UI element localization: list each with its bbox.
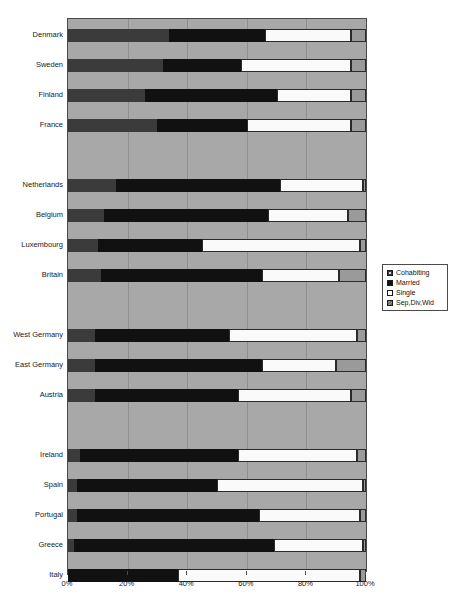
bar-segment-cohabiting (68, 59, 163, 72)
bar-segment-single (265, 29, 351, 42)
bar-segment-single (202, 239, 360, 252)
category-label-belgium: Belgium (0, 210, 63, 219)
bar-row (68, 29, 366, 42)
bar-segment-sepdivwid (363, 479, 366, 492)
bar-segment-married (77, 509, 259, 522)
x-tick-mark (186, 571, 187, 575)
bar-segment-single (238, 389, 351, 402)
x-tick-label: 20% (119, 579, 134, 588)
bar-segment-sepdivwid (351, 59, 366, 72)
legend-item-single[interactable]: Single (387, 289, 443, 296)
category-label-spain: Spain (0, 480, 63, 489)
bar-row (68, 329, 366, 342)
legend-label: Married (396, 279, 420, 286)
bar-row (68, 59, 366, 72)
bar-segment-single (262, 359, 337, 372)
bar-row (68, 239, 366, 252)
bar-segment-married (169, 29, 264, 42)
legend-swatch-icon (387, 290, 393, 296)
stacked-bar-chart: DenmarkSwedenFinlandFranceNetherlandsBel… (0, 0, 464, 611)
bar-segment-sepdivwid (360, 239, 366, 252)
bar-segment-married (101, 269, 262, 282)
category-label-sweden: Sweden (0, 60, 63, 69)
legend-swatch-icon (387, 270, 393, 276)
bar-segment-sepdivwid (351, 389, 366, 402)
bar-row (68, 89, 366, 102)
bar-segment-married (116, 179, 280, 192)
x-tick-mark (365, 571, 366, 575)
category-label-france: France (0, 120, 63, 129)
bar-segment-single (277, 89, 352, 102)
bar-segment-sepdivwid (336, 359, 366, 372)
bar-row (68, 269, 366, 282)
bar-segment-sepdivwid (360, 509, 366, 522)
bar-segment-sepdivwid (348, 209, 366, 222)
bar-row (68, 119, 366, 132)
x-tick-mark (67, 571, 68, 575)
bar-segment-sepdivwid (351, 119, 366, 132)
legend-label: Single (396, 289, 415, 296)
bar-row (68, 359, 366, 372)
category-label-netherlands: Netherlands (0, 180, 63, 189)
legend-item-cohabiting[interactable]: Cohabiting (387, 269, 443, 276)
legend-label: Sep,Div,Wid (396, 299, 434, 306)
bar-segment-single (262, 269, 339, 282)
x-tick-label: 40% (179, 579, 194, 588)
bar-row (68, 389, 366, 402)
x-tick-label: 100% (355, 579, 374, 588)
legend-swatch-icon (387, 280, 393, 286)
bar-segment-cohabiting (68, 449, 80, 462)
bar-segment-cohabiting (68, 29, 169, 42)
category-label-greece: Greece (0, 540, 63, 549)
bar-segment-cohabiting (68, 359, 95, 372)
legend-item-married[interactable]: Married (387, 279, 443, 286)
bar-segment-sepdivwid (363, 539, 366, 552)
category-label-finland: Finland (0, 90, 63, 99)
bar-row (68, 179, 366, 192)
bar-segment-cohabiting (68, 89, 145, 102)
category-label-portugal: Portugal (0, 510, 63, 519)
bar-row (68, 539, 366, 552)
bar-segment-married (95, 359, 262, 372)
x-tick-mark (305, 571, 306, 575)
bar-segment-single (229, 329, 357, 342)
category-label-luxembourg: Luxembourg (0, 240, 63, 249)
bar-segment-cohabiting (68, 389, 95, 402)
bar-row (68, 479, 366, 492)
legend-item-sepdivwid[interactable]: Sep,Div,Wid (387, 299, 443, 306)
bar-segment-cohabiting (68, 269, 101, 282)
plot-area (67, 18, 367, 572)
x-tick-label: 60% (238, 579, 253, 588)
bar-segment-single (217, 479, 363, 492)
bar-row (68, 209, 366, 222)
bar-segment-married (95, 329, 229, 342)
bar-segment-single (238, 449, 357, 462)
x-tick-mark (127, 571, 128, 575)
bar-segment-single (241, 59, 351, 72)
bar-row (68, 509, 366, 522)
bar-segment-cohabiting (68, 329, 95, 342)
bar-segment-single (178, 569, 360, 582)
bar-segment-married (77, 479, 217, 492)
bar-segment-married (163, 59, 240, 72)
x-tick-label: 80% (298, 579, 313, 588)
bar-segment-cohabiting (68, 239, 98, 252)
bar-segment-sepdivwid (357, 329, 366, 342)
bar-segment-married (95, 389, 238, 402)
bar-segment-married (98, 239, 202, 252)
bar-segment-sepdivwid (339, 269, 366, 282)
bar-segment-married (157, 119, 246, 132)
bar-row (68, 449, 366, 462)
bar-segment-cohabiting (68, 209, 104, 222)
bar-segment-married (74, 539, 274, 552)
legend-swatch-icon (387, 300, 393, 306)
bar-segment-married (80, 449, 238, 462)
bar-segment-sepdivwid (357, 449, 366, 462)
legend-label: Cohabiting (396, 269, 429, 276)
bar-segment-cohabiting (68, 509, 77, 522)
bar-segment-single (259, 509, 360, 522)
category-label-east-germany: East Germany (0, 360, 63, 369)
category-label-west-germany: West Germany (0, 330, 63, 339)
bar-segment-sepdivwid (351, 29, 366, 42)
bar-segment-married (104, 209, 268, 222)
